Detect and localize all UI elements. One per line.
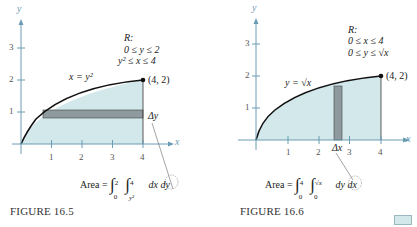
strip-label: Δx bbox=[332, 142, 342, 153]
region-condition-1: 0 ≤ x ≤ 4 bbox=[348, 35, 383, 46]
inner-differential: dy bbox=[335, 179, 344, 190]
y-axis-label: y bbox=[252, 2, 256, 13]
region-legend-swatch bbox=[394, 215, 412, 225]
x-tick-label-4: 4 bbox=[378, 147, 383, 157]
y-tick-label-3: 3 bbox=[245, 38, 250, 48]
y-tick-label-2: 2 bbox=[245, 70, 250, 80]
figure-caption: FIGURE 16.6 bbox=[240, 205, 304, 217]
x-tick-label-2: 2 bbox=[316, 147, 321, 157]
outer-upper-limit: 4 bbox=[300, 179, 304, 187]
y-tick-label-1: 1 bbox=[245, 102, 250, 112]
region-title: R: bbox=[348, 24, 357, 35]
x-tick-label-1: 1 bbox=[286, 147, 291, 157]
x-axis-label: x bbox=[406, 133, 410, 144]
point-label: (4, 2) bbox=[386, 70, 408, 81]
area-formula: Area = ∫40 ∫√x0 dy dx bbox=[265, 173, 357, 193]
x-tick-label-3: 3 bbox=[347, 147, 352, 157]
outer-differential: dx bbox=[347, 179, 356, 190]
formula-prefix: Area = bbox=[265, 179, 293, 190]
outer-lower-limit: 0 bbox=[299, 193, 303, 201]
region-condition-2: 0 ≤ y ≤ √x bbox=[348, 47, 388, 58]
inner-upper-limit: √x bbox=[315, 179, 322, 187]
curve-label: y = √x bbox=[285, 77, 311, 88]
inner-lower-limit: 0 bbox=[314, 193, 318, 201]
